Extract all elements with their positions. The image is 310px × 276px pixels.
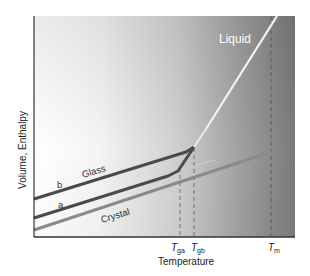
a-label: a <box>58 199 64 210</box>
x-axis-label: Temperature <box>158 256 215 267</box>
tga-tick-label: Tga <box>171 242 185 255</box>
tgb-tick-label: Tgb <box>191 242 205 255</box>
b-label: b <box>57 179 62 190</box>
y-axis-label: Volume, Enthalpy <box>17 111 28 189</box>
glass-transition-diagram: Liquid Glass Crystal b a Tga Tgb Tm Temp… <box>0 0 310 276</box>
tm-tick-label: Tm <box>268 242 280 254</box>
liquid-label: Liquid <box>219 32 251 46</box>
